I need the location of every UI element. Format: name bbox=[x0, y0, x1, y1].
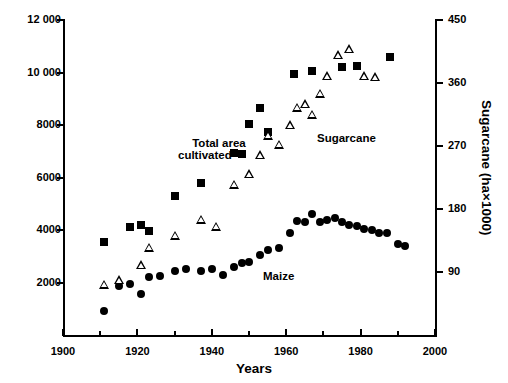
data-point-open-triangle bbox=[315, 89, 325, 98]
data-point-filled-circle bbox=[126, 280, 134, 288]
x-tick-minor bbox=[174, 331, 176, 336]
x-tick-label: 1940 bbox=[187, 345, 237, 357]
y-tick-label-right: 270 bbox=[448, 140, 466, 151]
data-point-filled-circle bbox=[301, 218, 309, 226]
y-tick-label-right: 360 bbox=[448, 77, 466, 88]
y-tick-label-left: 4000 bbox=[37, 224, 61, 235]
annotation-sugarcane: Sugarcane bbox=[317, 132, 376, 144]
x-tick-minor bbox=[99, 331, 101, 336]
data-point-open-triangle bbox=[170, 231, 180, 240]
data-point-filled-square bbox=[245, 120, 253, 128]
y-tick-label-right: 450 bbox=[448, 14, 466, 25]
data-point-open-triangle bbox=[344, 44, 354, 53]
data-point-filled-square bbox=[145, 227, 153, 235]
data-point-filled-square bbox=[197, 179, 205, 187]
data-point-open-triangle bbox=[263, 131, 273, 140]
x-axis-title: Years bbox=[0, 361, 508, 376]
data-point-filled-square bbox=[353, 62, 361, 70]
data-point-open-triangle bbox=[229, 180, 239, 189]
x-axis-line bbox=[63, 335, 437, 337]
data-point-open-triangle bbox=[211, 222, 221, 231]
data-point-filled-circle bbox=[100, 307, 108, 315]
data-point-filled-circle bbox=[401, 242, 409, 250]
data-point-open-triangle bbox=[255, 150, 265, 159]
data-point-open-triangle bbox=[333, 50, 343, 59]
data-point-open-triangle bbox=[285, 120, 295, 129]
y-tick-right bbox=[435, 208, 443, 210]
data-point-open-triangle bbox=[244, 169, 254, 178]
x-tick-label: 1900 bbox=[38, 345, 88, 357]
data-point-filled-circle bbox=[145, 273, 153, 281]
data-point-filled-circle bbox=[197, 267, 205, 275]
data-point-filled-square bbox=[100, 238, 108, 246]
x-tick-label: 1960 bbox=[261, 345, 311, 357]
data-point-filled-square bbox=[256, 104, 264, 112]
y-tick-right bbox=[435, 19, 443, 21]
data-point-filled-circle bbox=[137, 290, 145, 298]
x-tick-minor bbox=[248, 331, 250, 336]
data-point-filled-circle bbox=[275, 244, 283, 252]
y-tick-label-left: 2000 bbox=[37, 277, 61, 288]
x-tick-major bbox=[285, 329, 287, 336]
x-tick-label: 1980 bbox=[336, 345, 386, 357]
data-point-filled-circle bbox=[323, 216, 331, 224]
data-point-filled-circle bbox=[245, 258, 253, 266]
y-tick-label-left: 12 000 bbox=[27, 14, 61, 25]
y-axis-right-title: Sugarcane (ha×1000) bbox=[479, 100, 494, 235]
clipped-caption bbox=[6, 0, 366, 5]
filled-square-key-icon bbox=[238, 150, 246, 158]
data-point-filled-circle bbox=[264, 246, 272, 254]
data-point-open-triangle bbox=[196, 215, 206, 224]
x-tick-major bbox=[434, 329, 436, 336]
data-point-filled-circle bbox=[182, 265, 190, 273]
data-point-open-triangle bbox=[300, 99, 310, 108]
data-point-filled-circle bbox=[375, 229, 383, 237]
data-point-open-triangle bbox=[99, 280, 109, 289]
data-point-filled-square bbox=[338, 63, 346, 71]
data-point-filled-circle bbox=[383, 229, 391, 237]
x-tick-major bbox=[62, 329, 64, 336]
annotation-total-area-line1: Total area bbox=[192, 137, 245, 149]
data-point-open-triangle bbox=[370, 72, 380, 81]
data-point-filled-circle bbox=[230, 263, 238, 271]
data-point-open-triangle bbox=[359, 71, 369, 80]
data-point-filled-circle bbox=[156, 272, 164, 280]
y-axis-left-line bbox=[63, 20, 65, 337]
plot-area: Total area cultivated Sugarcane Maize bbox=[63, 20, 437, 337]
data-point-open-triangle bbox=[144, 243, 154, 252]
annotation-maize: Maize bbox=[263, 270, 294, 282]
y-axis-right-line bbox=[435, 20, 437, 337]
data-point-filled-square bbox=[171, 192, 179, 200]
x-tick-minor bbox=[322, 331, 324, 336]
data-point-open-triangle bbox=[307, 110, 317, 119]
annotation-total-area-cultivated: Total area cultivated bbox=[178, 137, 246, 161]
x-tick-minor bbox=[397, 331, 399, 336]
x-tick-label: 2000 bbox=[410, 345, 460, 357]
y-tick-right bbox=[435, 271, 443, 273]
data-point-open-triangle bbox=[136, 260, 146, 269]
data-point-open-triangle bbox=[114, 275, 124, 284]
data-point-filled-circle bbox=[171, 267, 179, 275]
y-tick-label-right: 180 bbox=[448, 203, 466, 214]
x-tick-major bbox=[360, 329, 362, 336]
figure-container: Total area cultivated Sugarcane Maize To… bbox=[0, 0, 508, 383]
data-point-filled-square bbox=[386, 53, 394, 61]
data-point-open-triangle bbox=[274, 140, 284, 149]
y-tick-right bbox=[435, 145, 443, 147]
data-point-filled-circle bbox=[286, 229, 294, 237]
annotation-total-area-line2: cultivated bbox=[178, 149, 232, 161]
y-tick-label-left: 8000 bbox=[37, 119, 61, 130]
y-tick-label-right: 90 bbox=[448, 266, 460, 277]
data-point-filled-square bbox=[308, 67, 316, 75]
data-point-filled-circle bbox=[308, 210, 316, 218]
data-point-filled-circle bbox=[219, 271, 227, 279]
y-tick-right bbox=[435, 82, 443, 84]
data-point-filled-square bbox=[126, 223, 134, 231]
data-point-open-triangle bbox=[322, 71, 332, 80]
data-point-filled-circle bbox=[208, 265, 216, 273]
y-tick-label-left: 6000 bbox=[37, 172, 61, 183]
x-tick-major bbox=[211, 329, 213, 336]
data-point-filled-square bbox=[290, 70, 298, 78]
x-tick-major bbox=[136, 329, 138, 336]
y-tick-label-left: 10 000 bbox=[27, 67, 61, 78]
